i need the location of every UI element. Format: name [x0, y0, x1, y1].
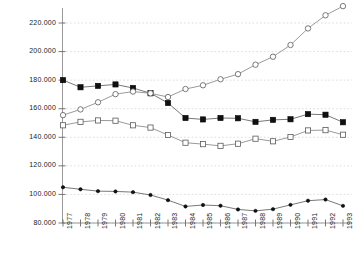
- x-tick-label: 1984: [189, 213, 197, 229]
- y-tick-label: 100.000: [6, 190, 56, 198]
- data-point-filled-square: [323, 112, 328, 117]
- y-tick-label: 80.000: [6, 219, 56, 227]
- data-point-open-square: [200, 142, 205, 147]
- y-tick-label: 140.000: [6, 133, 56, 141]
- data-point-filled-square: [165, 100, 170, 105]
- data-point-filled-circle: [166, 198, 169, 201]
- gridlines: [63, 23, 353, 223]
- x-tick-label: 1978: [84, 213, 92, 229]
- data-point-open-square: [288, 134, 293, 139]
- data-point-filled-circle: [201, 203, 204, 206]
- y-tick-label: 200.000: [6, 47, 56, 55]
- data-point-open-circle: [288, 42, 293, 47]
- data-point-filled-circle: [271, 207, 274, 210]
- data-point-filled-circle: [219, 204, 222, 207]
- x-tick-label: 1979: [101, 213, 109, 229]
- x-tick-label: 1983: [171, 213, 179, 229]
- data-point-filled-circle: [149, 193, 152, 196]
- data-point-open-circle: [78, 107, 83, 112]
- y-tick-label: 120.000: [6, 161, 56, 169]
- x-tick-label: 1986: [224, 213, 232, 229]
- x-tick-label: 1991: [311, 213, 319, 229]
- data-point-open-square: [113, 118, 118, 123]
- data-point-filled-square: [200, 117, 205, 122]
- data-point-open-square: [305, 128, 310, 133]
- data-point-open-square: [148, 125, 153, 130]
- x-tick-label: 1989: [276, 213, 284, 229]
- data-point-filled-circle: [236, 208, 239, 211]
- data-point-open-square: [253, 136, 258, 141]
- data-point-open-square: [183, 140, 188, 145]
- data-point-filled-circle: [61, 186, 64, 189]
- data-point-open-square: [323, 128, 328, 133]
- x-tick-label: 1992: [329, 213, 337, 229]
- data-point-open-square: [60, 123, 65, 128]
- data-point-open-circle: [270, 54, 275, 59]
- data-point-open-circle: [113, 91, 118, 96]
- y-tick-label: 160.000: [6, 104, 56, 112]
- data-point-open-circle: [323, 13, 328, 18]
- data-point-open-square: [235, 141, 240, 146]
- data-point-filled-square: [60, 78, 65, 83]
- data-point-filled-circle: [306, 199, 309, 202]
- data-point-filled-circle: [254, 209, 257, 212]
- data-point-open-circle: [235, 71, 240, 76]
- x-tick-label: 1982: [154, 213, 162, 229]
- data-point-filled-square: [78, 85, 83, 90]
- series-line: [63, 6, 343, 115]
- data-point-open-square: [78, 119, 83, 124]
- data-point-open-circle: [200, 83, 205, 88]
- data-point-filled-circle: [114, 190, 117, 193]
- series-line: [63, 187, 343, 211]
- data-point-filled-circle: [96, 189, 99, 192]
- data-point-filled-square: [95, 83, 100, 88]
- data-point-open-square: [130, 123, 135, 128]
- series-series-open-circle: [60, 3, 345, 117]
- data-point-filled-circle: [324, 198, 327, 201]
- y-tick-label: 220.000: [6, 19, 56, 27]
- data-point-open-circle: [60, 112, 65, 117]
- x-tick-label: 1985: [206, 213, 214, 229]
- x-tick-label: 1981: [136, 213, 144, 229]
- x-tick-label: 1980: [119, 213, 127, 229]
- data-point-filled-square: [235, 116, 240, 121]
- series-series-open-square: [60, 118, 345, 149]
- data-point-open-circle: [253, 62, 258, 67]
- data-point-open-square: [340, 132, 345, 137]
- data-point-open-circle: [95, 100, 100, 105]
- data-point-filled-square: [340, 120, 345, 125]
- data-point-open-circle: [218, 77, 223, 82]
- data-point-filled-square: [113, 82, 118, 87]
- data-point-filled-square: [253, 119, 258, 124]
- data-point-open-circle: [130, 89, 135, 94]
- data-point-open-circle: [340, 3, 345, 8]
- x-tick-label: 1990: [294, 213, 302, 229]
- data-point-open-square: [95, 118, 100, 123]
- x-tick-label: 1988: [259, 213, 267, 229]
- data-point-open-circle: [183, 86, 188, 91]
- data-point-open-circle: [305, 26, 310, 31]
- data-point-open-square: [165, 132, 170, 137]
- data-point-filled-circle: [341, 204, 344, 207]
- data-series-layer: [60, 3, 345, 212]
- data-point-filled-circle: [79, 188, 82, 191]
- x-tick-label: 1977: [66, 213, 74, 229]
- data-point-filled-square: [288, 117, 293, 122]
- series-series-small-filled-circle: [61, 186, 344, 213]
- data-point-filled-square: [270, 117, 275, 122]
- data-point-filled-square: [183, 115, 188, 120]
- x-tick-label: 1993: [346, 213, 354, 229]
- y-tick-label: 180.000: [6, 76, 56, 84]
- data-point-open-square: [270, 139, 275, 144]
- data-point-open-circle: [165, 94, 170, 99]
- data-point-filled-circle: [131, 190, 134, 193]
- data-point-filled-circle: [289, 203, 292, 206]
- data-point-open-square: [218, 143, 223, 148]
- x-tick-label: 1987: [241, 213, 249, 229]
- data-point-filled-square: [305, 112, 310, 117]
- data-point-open-circle: [148, 91, 153, 96]
- data-point-filled-square: [218, 115, 223, 120]
- line-chart: 80.000100.000120.000140.000160.000180.00…: [0, 0, 364, 260]
- data-point-filled-circle: [184, 205, 187, 208]
